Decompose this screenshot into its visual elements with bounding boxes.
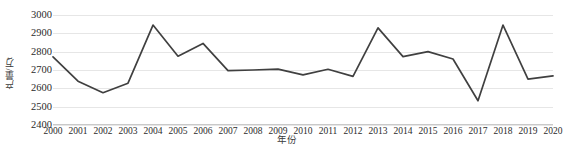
y-tick-label: 2900	[6, 28, 52, 38]
x-axis-title: 年份	[0, 135, 559, 145]
y-tick-label: 2500	[6, 102, 52, 112]
series-line-production	[53, 15, 553, 125]
y-tick-label: 2700	[6, 65, 52, 75]
plot-area	[53, 15, 553, 125]
y-tick-label: 2800	[6, 47, 52, 57]
y-tick-label: 3000	[6, 10, 52, 20]
y-tick-label: 2600	[6, 83, 52, 93]
y-axis-tick-labels: 3000290028002700260025002400	[0, 0, 52, 146]
